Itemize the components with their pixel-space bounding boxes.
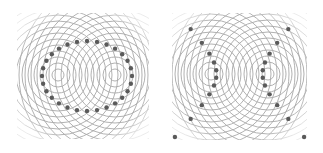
curve-dot [57, 46, 61, 50]
curve-dot [44, 59, 48, 63]
curve-dot [50, 96, 54, 100]
curve-dot [189, 117, 193, 121]
ellipse-diagram [17, 13, 149, 139]
ellipse-interference-panel [17, 13, 149, 139]
curve-dot [125, 59, 129, 63]
curve-dot [95, 40, 99, 44]
curve-dot [214, 76, 218, 80]
curve-dot [104, 42, 108, 46]
curve-dot [200, 103, 204, 107]
curve-dot [267, 92, 271, 96]
curve-dot [189, 27, 193, 31]
curve-dot [41, 66, 45, 70]
curve-dot [44, 89, 48, 93]
curve-dot [261, 76, 265, 80]
curve-dot [85, 109, 89, 113]
curve-dot [207, 92, 211, 96]
curve-dot [275, 41, 279, 45]
curve-dot [129, 66, 133, 70]
curve-dot [286, 117, 290, 121]
curve-dot [75, 40, 79, 44]
curve-dot [212, 60, 216, 64]
curve-dot [267, 51, 271, 55]
curve-dot [95, 108, 99, 112]
curve-dot [173, 135, 177, 139]
curve-dot [263, 60, 267, 64]
curve-dot [113, 101, 117, 105]
curve-dot [129, 82, 133, 86]
curve-dot [85, 39, 89, 43]
curve-dot [41, 82, 45, 86]
curve-dot [57, 101, 61, 105]
curve-dot [50, 52, 54, 56]
curve-dot [286, 27, 290, 31]
curve-dot [120, 52, 124, 56]
curve-dot [125, 89, 129, 93]
curve-dot [275, 103, 279, 107]
curve-dot [104, 105, 108, 109]
curve-dot [75, 108, 79, 112]
concentric-rings [17, 13, 149, 139]
curve-dot [113, 46, 117, 50]
curve-dot [130, 74, 134, 78]
curve-dot [40, 74, 44, 78]
curve-dot [212, 83, 216, 87]
curve-dot [302, 135, 306, 139]
curve-dot [214, 68, 218, 72]
curve-dot [261, 68, 265, 72]
curve-dot [200, 41, 204, 45]
hyperbola-interference-panel [172, 13, 307, 140]
hyperbola-diagram [172, 13, 307, 140]
curve-dot [120, 96, 124, 100]
curve-dot [207, 51, 211, 55]
curve-dot [65, 42, 69, 46]
curve-dot [263, 83, 267, 87]
curve-dot [65, 105, 69, 109]
concentric-rings [172, 13, 307, 140]
